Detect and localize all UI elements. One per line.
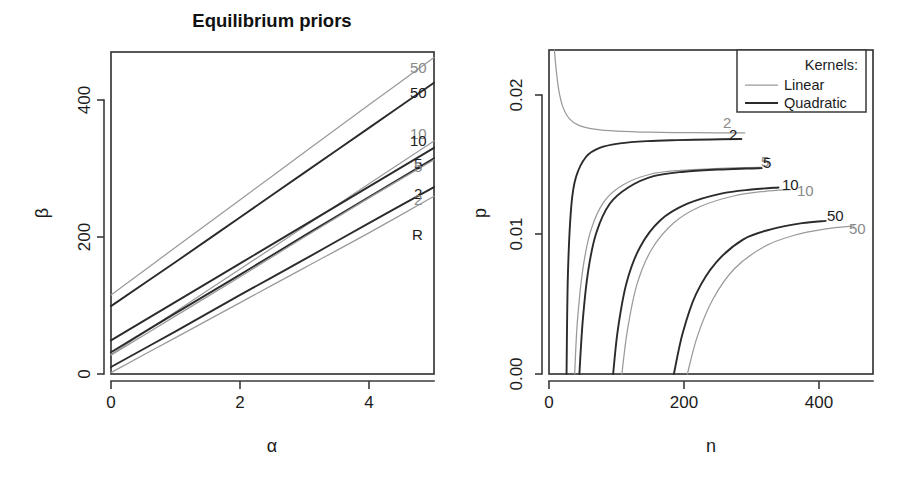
left-curve-label-50-quadratic: 50 bbox=[410, 84, 427, 101]
right-curve-label-50-linear: 50 bbox=[849, 220, 866, 237]
left-x-tick-label-2: 2 bbox=[235, 393, 244, 412]
right-y-axis-title: p bbox=[470, 208, 490, 218]
left-curve-label-10-quadratic: 10 bbox=[410, 132, 427, 149]
figure-root: Equilibrium priors 0 200 400 β 0 bbox=[0, 0, 905, 482]
left-curve-label-5-linear: 5 bbox=[414, 158, 422, 175]
legend[interactable]: Kernels: Linear Quadratic bbox=[737, 50, 866, 112]
right-x-tick-label-0: 0 bbox=[544, 393, 553, 412]
right-y-tick-label-001: 0.01 bbox=[507, 217, 526, 250]
left-x-tick-label-4: 4 bbox=[364, 393, 373, 412]
left-y-tick-label-200: 200 bbox=[75, 223, 94, 251]
figure-canvas: Equilibrium priors 0 200 400 β 0 bbox=[0, 0, 905, 482]
legend-label-quadratic: Quadratic bbox=[784, 95, 847, 111]
right-x-axis-title: n bbox=[706, 436, 716, 456]
right-x-tick-label-200: 200 bbox=[670, 393, 698, 412]
left-curve-label-50-linear: 50 bbox=[410, 59, 427, 76]
left-x-axis-title: α bbox=[267, 436, 277, 456]
legend-label-linear: Linear bbox=[784, 77, 824, 93]
left-y-axis-title: β bbox=[32, 208, 52, 218]
left-y-tick-label-400: 400 bbox=[75, 86, 94, 114]
right-curve-label-10-linear: 10 bbox=[797, 182, 814, 199]
right-curve-label-50-quadratic: 50 bbox=[827, 207, 844, 224]
legend-title: Kernels: bbox=[805, 57, 858, 73]
right-y-tick-label-002: 0.02 bbox=[507, 78, 526, 111]
page-title: Equilibrium priors bbox=[192, 10, 351, 31]
left-curve-label-2-linear: 2 bbox=[414, 191, 422, 208]
right-curve-label-2-quadratic: 2 bbox=[729, 126, 737, 143]
left-curve-label-r: R bbox=[412, 226, 423, 243]
right-x-tick-label-400: 400 bbox=[805, 393, 833, 412]
right-curve-label-5-quadratic: 5 bbox=[763, 154, 771, 171]
left-x-tick-label-0: 0 bbox=[106, 393, 115, 412]
left-y-tick-label-0: 0 bbox=[75, 369, 94, 378]
right-y-tick-label-000: 0.00 bbox=[507, 357, 526, 390]
